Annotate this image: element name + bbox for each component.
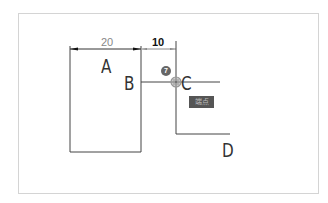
label-d: D <box>222 141 234 160</box>
dimension-20: 20 <box>101 37 113 48</box>
step-badge: 7 <box>161 66 171 76</box>
snap-tooltip: 端点 <box>189 96 214 108</box>
label-b: B <box>124 74 134 93</box>
label-a: A <box>101 57 111 76</box>
cad-drawing <box>0 0 328 203</box>
dimension-10: 10 <box>152 37 164 48</box>
label-c: C <box>181 74 192 93</box>
